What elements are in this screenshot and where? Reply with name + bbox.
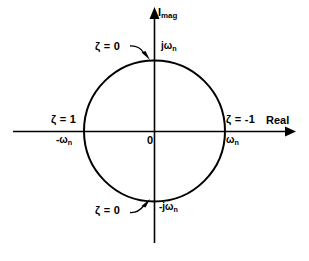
negative-j-omega-n-label-main: -jω [159,201,174,212]
figure-canvas: Imag Real 0 ζ = 0 jωn ζ = 0 -jωn ζ = 1 -… [0,0,309,261]
plot-svg [0,0,309,261]
omega-n-label: ωn [226,135,239,145]
negative-omega-n-label-main: -ω [56,134,68,145]
j-omega-n-label-sub: n [172,44,176,53]
imaginary-axis-label-sub: mag [161,11,177,20]
zeta-one-label: ζ = 1 [51,114,76,125]
omega-n-label-sub: n [234,138,238,147]
negative-j-omega-n-label-sub: n [174,205,178,214]
zeta-negative-one-label: ζ = -1 [226,114,255,125]
top-zeta-leader-line [130,46,144,53]
real-axis-label: Real [266,115,289,126]
imaginary-axis-label: Imag [158,7,177,18]
negative-omega-n-label-sub: n [68,138,72,147]
real-axis-arrowhead [285,127,296,137]
j-omega-n-label-main: jω [161,40,172,51]
zeta-zero-top-label: ζ = 0 [95,41,120,52]
origin-label: 0 [147,135,153,146]
negative-j-omega-n-label: -jωn [159,202,178,212]
zeta-zero-bottom-label: ζ = 0 [95,205,120,216]
negative-omega-n-label: -ωn [56,135,72,145]
top-zeta-leader-arrowhead [142,51,151,60]
bottom-zeta-leader-line [130,206,144,213]
j-omega-n-label: jωn [161,41,177,51]
